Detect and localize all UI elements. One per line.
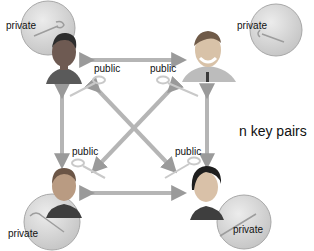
diagram-title: n key pairs	[239, 123, 307, 139]
private-label-bottom-right: private	[233, 224, 263, 235]
private-key-circle-bottom-left	[24, 194, 80, 250]
public-label-top-right: public	[150, 63, 176, 74]
person-bottom-left	[46, 168, 82, 218]
private-key-circle-bottom-right	[217, 195, 271, 249]
public-label-top-left: public	[94, 63, 120, 74]
person-top-right	[182, 31, 236, 82]
person-bottom-right	[190, 166, 224, 220]
private-label-bottom-left: private	[8, 228, 38, 239]
private-label-top-left: private	[6, 20, 36, 31]
public-label-bottom-right: public	[175, 146, 201, 157]
public-label-bottom-left: public	[72, 146, 98, 157]
private-label-top-right: private	[237, 20, 267, 31]
